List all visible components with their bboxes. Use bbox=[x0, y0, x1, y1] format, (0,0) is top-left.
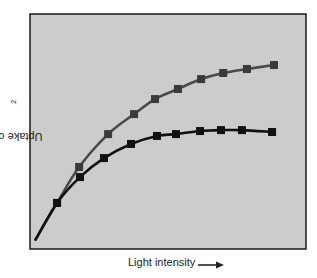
data-point-marker bbox=[219, 69, 227, 77]
data-point-marker bbox=[76, 173, 84, 181]
data-point-marker bbox=[53, 199, 61, 207]
data-point-marker bbox=[104, 130, 112, 138]
y-axis-label-text: Uptake of CO bbox=[0, 131, 42, 143]
data-point-marker bbox=[75, 163, 83, 171]
data-point-marker bbox=[217, 126, 225, 134]
data-point-marker bbox=[174, 85, 182, 93]
data-point-marker bbox=[196, 127, 204, 135]
data-point-marker bbox=[130, 110, 138, 118]
y-axis-label: Uptake of CO2 bbox=[0, 90, 20, 180]
data-point-marker bbox=[100, 154, 108, 162]
x-axis-label: Light intensity bbox=[128, 256, 195, 268]
co2-uptake-chart bbox=[0, 0, 317, 278]
data-point-marker bbox=[127, 140, 135, 148]
right-arrow-icon bbox=[198, 261, 224, 269]
data-point-marker bbox=[270, 61, 278, 69]
data-point-marker bbox=[151, 95, 159, 103]
data-point-marker bbox=[153, 132, 161, 140]
data-point-marker bbox=[172, 130, 180, 138]
data-point-marker bbox=[238, 126, 246, 134]
y-axis-label-subscript: 2 bbox=[10, 100, 17, 104]
data-point-marker bbox=[197, 75, 205, 83]
data-point-marker bbox=[243, 65, 251, 73]
data-point-marker bbox=[268, 128, 276, 136]
